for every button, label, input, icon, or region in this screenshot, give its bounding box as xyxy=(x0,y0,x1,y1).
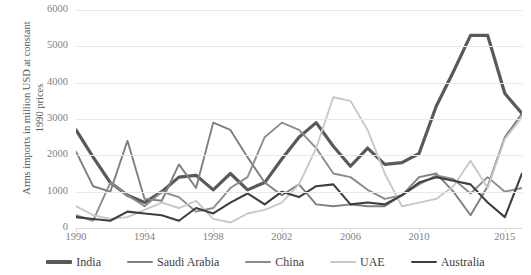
legend-label: Saudi Arabia xyxy=(157,256,219,268)
line-series-australia xyxy=(76,174,522,221)
y-tick-label: 4000 xyxy=(26,76,68,87)
legend-label: India xyxy=(76,256,101,268)
legend-item-uae[interactable]: UAE xyxy=(330,256,385,268)
y-tick-label: 6000 xyxy=(26,3,68,14)
x-tick-label: 2015 xyxy=(485,231,525,242)
x-tick-label: 1994 xyxy=(125,231,165,242)
line-series-saudi-arabia xyxy=(76,114,522,216)
legend-label: China xyxy=(275,256,304,268)
gridline xyxy=(76,119,522,120)
plot-area xyxy=(76,10,522,228)
y-tick-label: 1000 xyxy=(26,185,68,196)
line-series-uae xyxy=(76,97,522,222)
gridline xyxy=(76,46,522,47)
x-tick-label: 2010 xyxy=(399,231,439,242)
x-tick-label: 2002 xyxy=(262,231,302,242)
y-tick-label: 5000 xyxy=(26,39,68,50)
legend-swatch-icon xyxy=(330,261,356,263)
y-tick-label: 3000 xyxy=(26,112,68,123)
gridline xyxy=(76,155,522,156)
chart-container: Arms imports in million USD at constant … xyxy=(0,0,531,275)
y-tick-label: 2000 xyxy=(26,148,68,159)
legend-label: Australia xyxy=(441,256,485,268)
legend-swatch-icon xyxy=(245,261,271,263)
x-tick-label: 1998 xyxy=(193,231,233,242)
legend-item-australia[interactable]: Australia xyxy=(411,256,485,268)
x-tick-label: 2006 xyxy=(330,231,370,242)
gridline xyxy=(76,10,522,11)
legend-swatch-icon xyxy=(127,261,153,263)
gridline xyxy=(76,83,522,84)
legend-item-india[interactable]: India xyxy=(46,256,101,268)
legend-item-china[interactable]: China xyxy=(245,256,304,268)
x-tick-label: 1990 xyxy=(56,231,96,242)
legend-swatch-icon xyxy=(46,260,72,263)
legend-label: UAE xyxy=(360,256,385,268)
legend-swatch-icon xyxy=(411,261,437,263)
chart-legend: IndiaSaudi ArabiaChinaUAEAustralia xyxy=(0,252,531,272)
x-axis-line xyxy=(76,228,522,229)
legend-item-saudi-arabia[interactable]: Saudi Arabia xyxy=(127,256,219,268)
gridline xyxy=(76,192,522,193)
